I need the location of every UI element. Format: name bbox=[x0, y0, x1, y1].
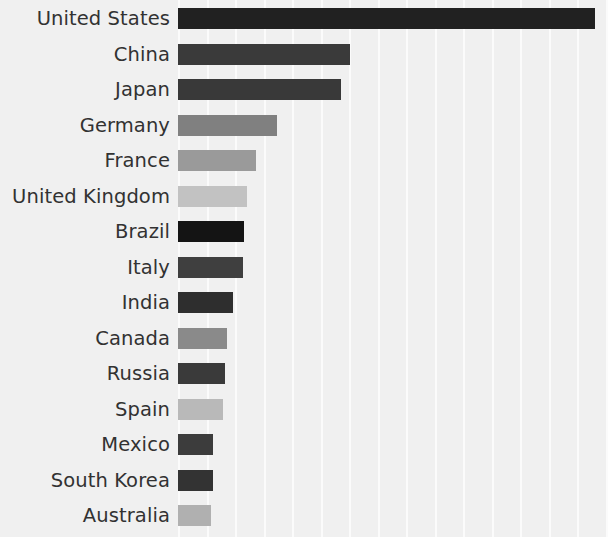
bar-row[interactable]: South Korea bbox=[0, 470, 608, 491]
bar[interactable] bbox=[178, 221, 244, 242]
bar-category-label: Canada bbox=[2, 328, 170, 349]
bar-fill bbox=[178, 505, 211, 526]
bar-row[interactable]: United Kingdom bbox=[0, 186, 608, 207]
bar-fill bbox=[178, 79, 341, 100]
bar-row[interactable]: Germany bbox=[0, 115, 608, 136]
bar[interactable] bbox=[178, 257, 243, 278]
bar[interactable] bbox=[178, 470, 213, 491]
bar-category-label: Mexico bbox=[2, 434, 170, 455]
bar[interactable] bbox=[178, 434, 213, 455]
bar[interactable] bbox=[178, 44, 350, 65]
bar[interactable] bbox=[178, 363, 225, 384]
bar-fill bbox=[178, 44, 350, 65]
bar-row[interactable]: Spain bbox=[0, 399, 608, 420]
bar-row[interactable]: Italy bbox=[0, 257, 608, 278]
bar-category-label: France bbox=[2, 150, 170, 171]
bar-category-label: Australia bbox=[2, 505, 170, 526]
chart-plot-area: United StatesChinaJapanGermanyFranceUnit… bbox=[0, 0, 608, 537]
bar[interactable] bbox=[178, 150, 256, 171]
bar-fill bbox=[178, 221, 244, 242]
bar-category-label: Germany bbox=[2, 115, 170, 136]
bar-fill bbox=[178, 186, 247, 207]
bar[interactable] bbox=[178, 328, 227, 349]
bar-row[interactable]: Brazil bbox=[0, 221, 608, 242]
bar-fill bbox=[178, 257, 243, 278]
bar[interactable] bbox=[178, 505, 211, 526]
bar-fill bbox=[178, 292, 233, 313]
bar-row[interactable]: France bbox=[0, 150, 608, 171]
bar-row[interactable]: Australia bbox=[0, 505, 608, 526]
bar-row[interactable]: United States bbox=[0, 8, 608, 29]
bar[interactable] bbox=[178, 292, 233, 313]
bar[interactable] bbox=[178, 8, 595, 29]
bar-fill bbox=[178, 115, 277, 136]
bar-fill bbox=[178, 8, 595, 29]
bar-row[interactable]: India bbox=[0, 292, 608, 313]
bar[interactable] bbox=[178, 115, 277, 136]
bar-category-label: South Korea bbox=[2, 470, 170, 491]
bar-row[interactable]: Japan bbox=[0, 79, 608, 100]
bar-row[interactable]: Russia bbox=[0, 363, 608, 384]
bar-chart: United StatesChinaJapanGermanyFranceUnit… bbox=[0, 0, 608, 537]
bar-category-label: China bbox=[2, 44, 170, 65]
bar-row[interactable]: Canada bbox=[0, 328, 608, 349]
bar-row[interactable]: China bbox=[0, 44, 608, 65]
bar[interactable] bbox=[178, 79, 341, 100]
bar-category-label: Russia bbox=[2, 363, 170, 384]
bar-category-label: Brazil bbox=[2, 221, 170, 242]
bar-category-label: Italy bbox=[2, 257, 170, 278]
bar-row[interactable]: Mexico bbox=[0, 434, 608, 455]
bar-fill bbox=[178, 434, 213, 455]
bar-fill bbox=[178, 328, 227, 349]
bar-category-label: Spain bbox=[2, 399, 170, 420]
bar-category-label: United Kingdom bbox=[2, 186, 170, 207]
bar-fill bbox=[178, 399, 223, 420]
bar[interactable] bbox=[178, 186, 247, 207]
bar-category-label: United States bbox=[2, 8, 170, 29]
bar-category-label: India bbox=[2, 292, 170, 313]
bar-fill bbox=[178, 150, 256, 171]
bar-fill bbox=[178, 363, 225, 384]
bar[interactable] bbox=[178, 399, 223, 420]
bar-category-label: Japan bbox=[2, 79, 170, 100]
bar-fill bbox=[178, 470, 213, 491]
